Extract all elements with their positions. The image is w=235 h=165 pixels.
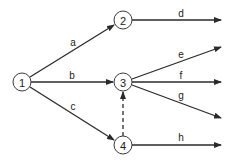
node-2-label: 2: [120, 15, 126, 27]
edge-e: [132, 47, 221, 79]
edge-g-label: g: [178, 90, 184, 101]
edge-g: [132, 85, 221, 118]
edge-f-label: f: [180, 70, 183, 81]
node-4: 4: [114, 136, 132, 154]
edge-d-label: d: [178, 8, 184, 19]
node-1-label: 1: [19, 77, 25, 89]
node-1: 1: [13, 73, 31, 91]
node-2: 2: [114, 11, 132, 29]
node-3: 3: [114, 73, 132, 91]
edge-c-label: c: [71, 101, 76, 112]
edge-e-label: e: [178, 49, 184, 60]
network-diagram: 1 2 3 4 a b c d e f g h: [0, 0, 235, 165]
node-4-label: 4: [120, 140, 126, 152]
edge-a-label: a: [70, 37, 76, 48]
edge-b-label: b: [69, 70, 75, 81]
edge-c: [30, 87, 114, 140]
node-3-label: 3: [120, 77, 126, 89]
edge-h-label: h: [178, 132, 184, 143]
